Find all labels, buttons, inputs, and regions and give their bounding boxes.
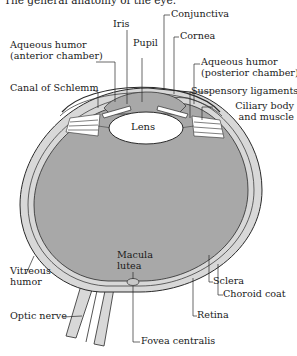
label-iris: Iris bbox=[113, 19, 129, 30]
label-aqueous-anterior: Aqueous humor (anterior chamber) bbox=[10, 40, 103, 61]
label-canal-of-schlemm: Canal of Schlemm bbox=[10, 83, 99, 94]
label-fovea-centralis: Fovea centralis bbox=[141, 336, 215, 347]
label-pupil: Pupil bbox=[133, 38, 158, 49]
label-sclera: Sclera bbox=[213, 276, 244, 287]
macula-lutea-shape bbox=[127, 279, 139, 286]
label-choroid-coat: Choroid coat bbox=[223, 289, 286, 300]
label-optic-nerve: Optic nerve bbox=[10, 311, 67, 322]
label-retina: Retina bbox=[197, 310, 229, 321]
label-conjunctiva: Conjunctiva bbox=[171, 9, 229, 20]
label-lens: Lens bbox=[131, 122, 155, 133]
label-cornea: Cornea bbox=[180, 31, 215, 42]
label-aqueous-posterior: Aqueous humor (posterior chamber) bbox=[201, 57, 297, 78]
label-vitreous-humor: Vitreous humor bbox=[10, 266, 51, 287]
label-suspensory-ligaments: Suspensory ligaments bbox=[191, 86, 297, 97]
label-ciliary-body: Ciliary body and muscle bbox=[214, 101, 294, 122]
label-macula-lutea: Macula lutea bbox=[117, 250, 153, 271]
